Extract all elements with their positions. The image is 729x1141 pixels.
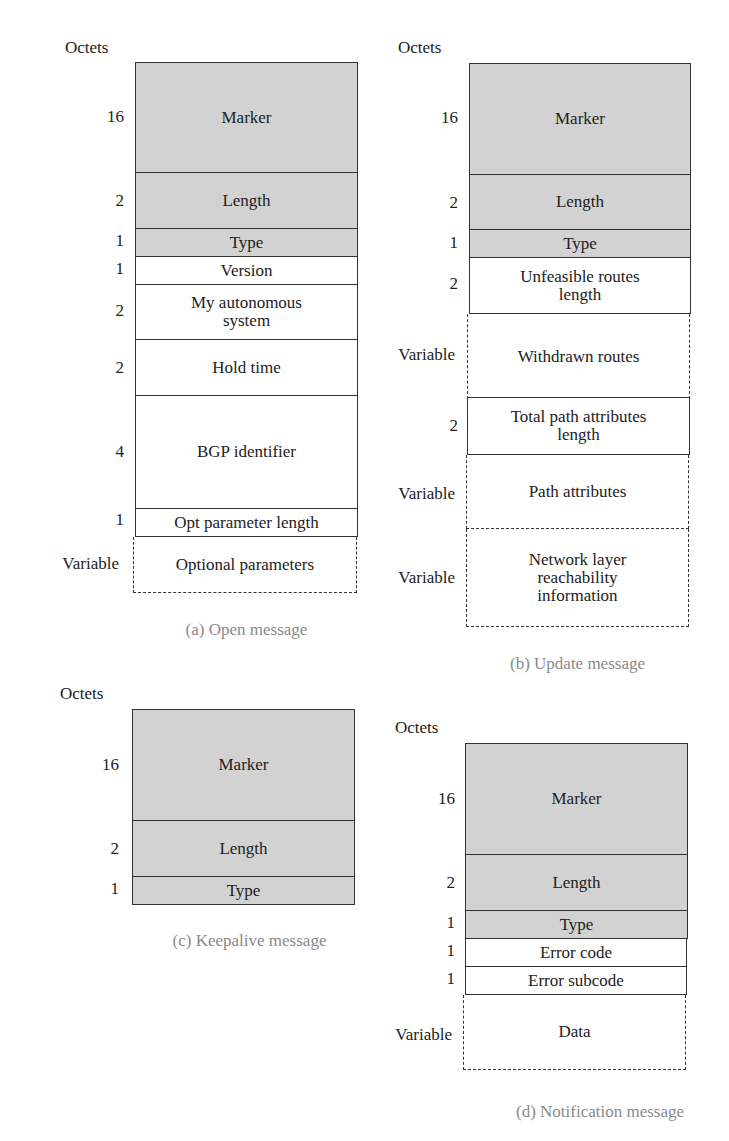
field-size: 1: [365, 941, 455, 961]
type-field: Type: [135, 229, 358, 257]
diagram-caption: (c) Keepalive message: [138, 931, 361, 951]
total-path-attributes-length-field: Total path attributes length: [467, 397, 690, 455]
octets-label: Octets: [395, 718, 438, 738]
error-code-field: Error code: [465, 939, 687, 967]
field-size: 16: [34, 107, 124, 127]
my-autonomous-system-field: My autonomous system: [135, 285, 358, 340]
field-size: 16: [368, 108, 458, 128]
field-size: Variable: [362, 1025, 452, 1045]
diagram-caption: (b) Update message: [466, 654, 689, 674]
field-size: Variable: [365, 568, 455, 588]
optional-parameters-field: Optional parameters: [133, 537, 357, 593]
field-size: Variable: [365, 484, 455, 504]
hold-time-field: Hold time: [135, 340, 358, 396]
length-field: Length: [465, 855, 688, 911]
marker-field: Marker: [132, 709, 355, 821]
length-field: Length: [135, 173, 358, 229]
field-size: 2: [34, 358, 124, 378]
octets-label: Octets: [60, 684, 103, 704]
octets-label: Octets: [398, 38, 441, 58]
field-size: 1: [365, 913, 455, 933]
diagram-caption: (d) Notification message: [475, 1102, 725, 1122]
length-field: Length: [132, 821, 355, 877]
unfeasible-routes-length-field: Unfeasible routes length: [469, 258, 691, 314]
field-size: 1: [34, 259, 124, 279]
field-size: 2: [34, 301, 124, 321]
marker-field: Marker: [469, 63, 691, 175]
field-size: 16: [365, 789, 455, 809]
error-subcode-field: Error subcode: [465, 967, 687, 995]
field-size: 2: [34, 191, 124, 211]
opt-parameter-length-field: Opt parameter length: [135, 509, 358, 537]
network-layer-reachability-information-field: Network layer reachability information: [466, 529, 689, 627]
marker-field: Marker: [135, 62, 358, 173]
withdrawn-routes-field: Withdrawn routes: [467, 314, 690, 399]
type-field: Type: [465, 911, 688, 939]
octets-label: Octets: [65, 38, 108, 58]
type-field: Type: [132, 877, 355, 905]
diagram-caption: (a) Open message: [135, 620, 358, 640]
data-field: Data: [463, 995, 686, 1070]
field-size: Variable: [365, 345, 455, 365]
version-field: Version: [135, 257, 358, 285]
marker-field: Marker: [465, 743, 688, 855]
field-size: 1: [34, 510, 124, 530]
field-size: 1: [34, 231, 124, 251]
field-size: 4: [34, 442, 124, 462]
type-field: Type: [469, 230, 691, 258]
field-size: 1: [368, 233, 458, 253]
length-field: Length: [469, 175, 691, 230]
field-size: 2: [368, 274, 458, 294]
field-size: 1: [365, 969, 455, 989]
bgp-identifier-field: BGP identifier: [135, 396, 358, 509]
field-size: Variable: [29, 554, 119, 574]
field-size: 2: [365, 873, 455, 893]
field-size: 2: [29, 839, 119, 859]
field-size: 2: [368, 193, 458, 213]
path-attributes-field: Path attributes: [466, 455, 689, 529]
field-size: 16: [29, 755, 119, 775]
field-size: 1: [29, 879, 119, 899]
field-size: 2: [368, 416, 458, 436]
